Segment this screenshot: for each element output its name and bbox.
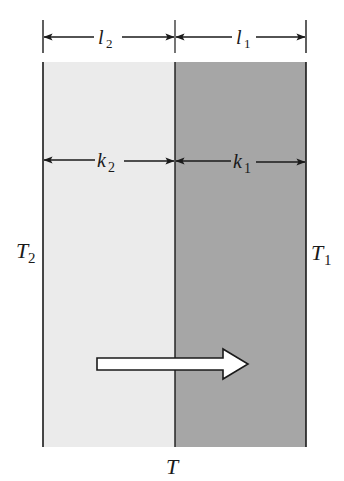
composite-wall-diagram: l 2 l 1 k 2 k 1 T 2 T 1 T — [0, 0, 344, 481]
label-l2-symbol: l — [98, 26, 104, 48]
temperature-interface: T — [166, 454, 180, 479]
label-k2-symbol: k — [97, 149, 107, 171]
slab-left — [43, 62, 175, 447]
label-l2-subscript: 2 — [106, 36, 113, 51]
label-l1-subscript: 1 — [244, 36, 251, 51]
label-t-interface: T — [166, 454, 180, 479]
label-t1-symbol: T — [311, 240, 325, 265]
label-t2-subscript: 2 — [28, 250, 36, 266]
label-l1-symbol: l — [236, 26, 242, 48]
temperature-t2: T 2 — [16, 238, 36, 266]
label-t1-subscript: 1 — [324, 252, 332, 268]
label-k1-subscript: 1 — [244, 161, 251, 176]
dimension-l2: l 2 — [44, 26, 174, 51]
label-k1-symbol: k — [233, 150, 243, 172]
temperature-t1: T 1 — [311, 240, 332, 268]
slab-right — [175, 62, 306, 447]
dimension-l1: l 1 — [176, 26, 305, 51]
label-k2-subscript: 2 — [108, 160, 115, 175]
